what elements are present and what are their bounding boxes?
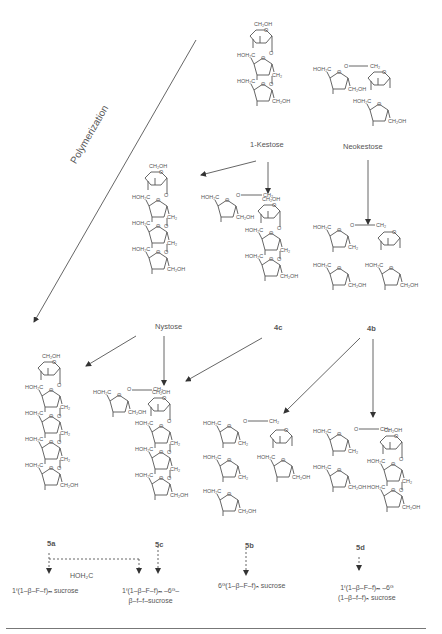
compound-name-5a: 5a (47, 539, 55, 548)
group-label-o: O (392, 229, 396, 235)
group-label-ch2oh: CH₂OH (348, 86, 366, 92)
group-label-o: O (49, 465, 53, 471)
group-label-ch2oh: CH₂OH (402, 504, 420, 510)
group-label-o: O (227, 491, 231, 497)
group-label-ch2oh: CH₂OH (167, 266, 185, 272)
compound-name-1-kestose: 1-Kestose (250, 140, 284, 149)
group-label-hoh2c: HOH₂C (93, 389, 111, 395)
group-label-o: O (284, 427, 288, 433)
group-label-ch2oh: CH₂OH (400, 282, 418, 288)
group-label-ch2oh: CH₂OH (292, 474, 310, 480)
group-label-ch2: CH₂ (272, 72, 282, 78)
group-label-ch2: CH₂ (348, 448, 358, 454)
group-label-o: O (49, 439, 53, 445)
diagram-canvas (0, 0, 442, 634)
group-label-ch2oh: CH₂OH (262, 196, 280, 202)
group-label-ch2: CH₂ (170, 440, 180, 446)
group-label-o: O (156, 197, 160, 203)
group-label-ch2: CH₂ (60, 456, 70, 462)
group-label-hoh2c: HOH₂C (313, 464, 331, 470)
group-label-hoh2c: HOH₂C (367, 458, 385, 464)
group-label-o: O (57, 413, 61, 419)
dashed-product-arrows (49, 546, 359, 575)
group-label-o: O (49, 387, 53, 393)
group-label-ch2oh: CH₂OH (152, 389, 170, 395)
group-label-ch2oh: CH₂OH (272, 98, 290, 104)
group-label-ch2oh: CH₂OH (149, 163, 167, 169)
group-label-hoh2c: HOH₂C (353, 98, 371, 104)
polymerization-arrow (34, 40, 196, 322)
group-label-ch2: CH₂ (269, 418, 279, 424)
reaction-arrows (34, 40, 373, 575)
group-label-hoh2c: HOH₂C (257, 454, 275, 460)
product-5c-label: 1ᶠ(1–β–F–f)ₘ –6ᴳ– β–f–f–sucrose (122, 586, 179, 606)
compound-name-5d: 5d (356, 543, 365, 552)
compound-name-5b: 5b (245, 541, 254, 550)
group-label-ch2: CH₂ (167, 240, 177, 246)
group-label-hoh2c: HOH₂C (132, 220, 150, 226)
group-label-ch2oh: CH₂OH (170, 492, 188, 498)
group-label-hoh2c: HOH₂C (365, 262, 383, 268)
group-label-o: O (159, 169, 163, 175)
fos-biosynthesis-diagram: Polymerization 1-Kestose Neokestose Nyst… (0, 0, 442, 634)
group-label-o: O (269, 256, 273, 262)
group-label-o: O (277, 225, 281, 231)
group-label-o: O (225, 197, 229, 203)
group-label-ch2oh: CH₂OH (42, 353, 60, 359)
product-5c-line1: 1ᶠ(1–β–F–f)ₘ –6ᴳ– (122, 586, 179, 596)
group-label-o: O (350, 222, 354, 228)
group-label-o: O (243, 418, 247, 424)
compound-name-nystose: Nystose (155, 322, 182, 331)
arrow-kestose-to-nystose (201, 161, 256, 175)
group-label-ch2: CH₂ (170, 466, 180, 472)
group-label-ch2: CH₂ (60, 430, 70, 436)
product-5d-label: 1ᶠ(1–β–F–f)ₘ –6ᴳ (1–β–f–f)ₙ sucrose (338, 583, 396, 603)
group-label-hoh2c: HOH₂C (237, 78, 255, 84)
group-label-o: O (227, 457, 231, 463)
product-5a-label: 1ᶠ(1–β–F–f)ₘ sucrose (12, 586, 78, 596)
group-label-o: O (394, 433, 398, 439)
product-5c-line2: β–f–f–sucrose (122, 596, 179, 606)
group-label-o: O (391, 487, 395, 493)
group-label-o: O (261, 55, 265, 61)
group-label-ch2oh: CH₂OH (60, 482, 78, 488)
group-label-o: O (227, 423, 231, 429)
arrow-nystose-to-5a (86, 336, 136, 366)
group-label-o: O (164, 223, 168, 229)
group-label-ch2oh: CH₂OH (128, 409, 146, 415)
group-label-o: O (377, 101, 381, 107)
group-label-o: O (167, 475, 171, 481)
compound-name-4b: 4b (367, 324, 376, 333)
group-label-o: O (156, 249, 160, 255)
group-label-o: O (281, 457, 285, 463)
group-label-o: O (344, 63, 348, 69)
compound-name-5c: 5c (155, 540, 163, 549)
group-label-hoh2c: HOH₂C (237, 52, 255, 58)
group-label-ch2: CH₂ (370, 63, 380, 69)
group-label-hoh2c: HOH₂C (245, 227, 263, 233)
group-label-hoh2c: HOH₂C (25, 410, 43, 416)
group-label-hoh2c: HOH₂C (313, 428, 331, 434)
group-label-o: O (57, 382, 61, 388)
product-5d-line2: (1–β–f–f)ₙ sucrose (338, 593, 396, 603)
group-label-hoh2c: HOH₂C (201, 194, 219, 200)
stray-hoh2c-label: HOH₂C (70, 572, 93, 579)
arrow-4c-to-5c (186, 338, 262, 381)
group-label-o: O (117, 392, 121, 398)
group-label-o: O (277, 256, 281, 262)
group-label-hoh2c: HOH₂C (132, 194, 150, 200)
group-label-o: O (269, 230, 273, 236)
group-label-hoh2c: HOH₂C (245, 253, 263, 259)
group-label-ch2oh: CH₂OH (238, 508, 256, 514)
caption-divider (6, 628, 426, 629)
compound-name-neokestose: Neokestose (343, 142, 383, 151)
group-label-o: O (156, 223, 160, 229)
group-label-ch2oh: CH₂OH (388, 118, 406, 124)
group-label-o: O (337, 69, 341, 75)
group-label-hoh2c: HOH₂C (25, 384, 43, 390)
compound-name-4c: 4c (274, 323, 282, 332)
group-label-hoh2c: HOH₂C (25, 436, 43, 442)
group-label-o: O (159, 449, 163, 455)
group-label-o: O (261, 81, 265, 87)
group-label-ch2: CH₂ (238, 474, 248, 480)
